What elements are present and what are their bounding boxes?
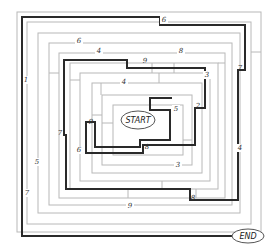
path-number-8: 4 bbox=[120, 78, 128, 86]
svg-text:9: 9 bbox=[89, 118, 94, 126]
path-number-14: 8 bbox=[145, 143, 150, 151]
svg-text:6: 6 bbox=[77, 37, 82, 45]
path-number-17: 3 bbox=[174, 161, 182, 169]
path-number-7: 3 bbox=[203, 71, 211, 79]
path-number-16: 5 bbox=[33, 158, 41, 166]
svg-text:9: 9 bbox=[143, 57, 148, 65]
path-number-12: 7 bbox=[58, 129, 63, 137]
end-label: END bbox=[239, 232, 256, 241]
svg-text:8: 8 bbox=[179, 47, 184, 55]
svg-text:4: 4 bbox=[96, 47, 101, 55]
path-number-6: 9 bbox=[143, 57, 148, 65]
svg-text:5: 5 bbox=[174, 105, 179, 113]
end-node: END bbox=[232, 229, 264, 243]
path-number-1: 6 bbox=[75, 37, 83, 45]
svg-text:9: 9 bbox=[128, 202, 133, 210]
svg-text:7: 7 bbox=[25, 189, 30, 197]
svg-text:6: 6 bbox=[162, 16, 167, 24]
path-number-13: 6 bbox=[75, 146, 83, 154]
path-number-19: 8 bbox=[191, 194, 196, 202]
svg-text:1: 1 bbox=[24, 76, 28, 84]
svg-text:4: 4 bbox=[237, 144, 242, 152]
path-number-4: 7 bbox=[238, 64, 243, 72]
start-node: START bbox=[121, 111, 155, 129]
svg-text:3: 3 bbox=[176, 161, 181, 169]
svg-text:2: 2 bbox=[195, 102, 201, 110]
svg-text:4: 4 bbox=[121, 78, 126, 86]
path-number-20: 9 bbox=[126, 202, 134, 210]
path-number-3: 8 bbox=[177, 47, 185, 55]
path-number-10: 5 bbox=[172, 105, 180, 113]
path-number-5: 1 bbox=[23, 76, 30, 84]
svg-text:8: 8 bbox=[191, 194, 196, 202]
svg-text:7: 7 bbox=[238, 64, 243, 72]
path-number-9: 2 bbox=[195, 102, 201, 110]
path-number-11: 9 bbox=[89, 118, 94, 126]
svg-text:7: 7 bbox=[58, 129, 63, 137]
maze-diagram: 6 6 4 8 7 1 9 3 4 2 5 9 7 6 8 4 5 3 7 8 … bbox=[0, 0, 277, 249]
svg-text:3: 3 bbox=[205, 71, 210, 79]
path-number-2: 4 bbox=[95, 47, 103, 55]
svg-text:8: 8 bbox=[145, 143, 150, 151]
path-number-0: 6 bbox=[160, 16, 168, 24]
path-number-15: 4 bbox=[236, 144, 244, 152]
svg-text:6: 6 bbox=[77, 146, 82, 154]
start-label: START bbox=[125, 116, 151, 125]
path-number-18: 7 bbox=[23, 189, 31, 197]
svg-text:5: 5 bbox=[35, 158, 40, 166]
